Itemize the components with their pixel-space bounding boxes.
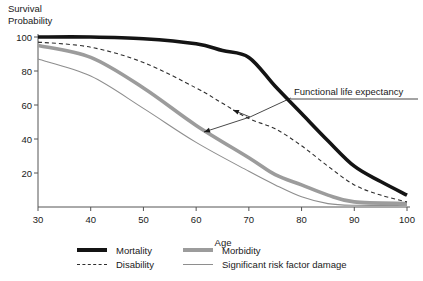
y-axis-title-line1: Survival [8,3,52,15]
x-tick-label-70: 70 [244,214,255,225]
annotation-label: Functional life expectancy [294,86,404,97]
series-line-mortality [38,37,407,195]
x-tick-label-100: 100 [399,214,415,225]
series-line-disability [38,42,407,202]
annotation-arrowhead-0 [233,110,239,115]
legend-label-mortality: Mortality [116,245,152,256]
legend-swatch-significant-risk-factor-damage [183,264,213,265]
x-tick-label-90: 90 [349,214,360,225]
series-line-morbidity [38,46,407,204]
x-tick-label-30: 30 [33,214,44,225]
y-tick-label-40: 40 [21,134,32,145]
x-tick-label-40: 40 [85,214,96,225]
legend-swatch-disability [77,264,107,265]
y-axis-title: Survival Probability [8,3,52,27]
y-axis-title-line2: Probability [8,15,52,27]
y-tick-label-60: 60 [21,100,32,111]
y-tick-label-20: 20 [21,168,32,179]
legend-swatch-morbidity [183,248,213,252]
annotation-leader-line [250,98,291,117]
legend-item-disability: Disability [77,257,154,271]
y-tick-label-80: 80 [21,66,32,77]
x-tick-label-60: 60 [191,214,202,225]
legend-label-disability: Disability [116,259,154,270]
legend-item-mortality: Mortality [77,243,154,257]
legend-label-significant-risk-factor-damage: Significant risk factor damage [222,259,347,270]
legend-label-morbidity: Morbidity [222,245,261,256]
legend-item-significant-risk-factor-damage: Significant risk factor damage [183,257,347,271]
legend-column-1: MortalityDisability [77,243,154,271]
legend-swatch-mortality [77,248,107,252]
x-tick-label-80: 80 [296,214,307,225]
annotation-arrow-line-1 [204,117,250,132]
survival-probability-chart: 2040608010030405060708090100Functional l… [0,0,423,281]
series-line-significant-risk-factor-damage [38,59,407,205]
y-tick-label-100: 100 [16,32,32,43]
x-tick-label-50: 50 [138,214,149,225]
legend-column-2: MorbiditySignificant risk factor damage [183,243,347,271]
legend: MortalityDisabilityMorbiditySignificant … [0,243,423,277]
legend-item-morbidity: Morbidity [183,243,347,257]
